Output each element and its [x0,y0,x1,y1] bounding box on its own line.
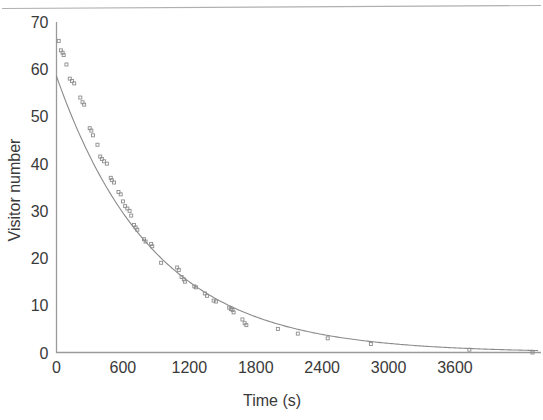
data-point-marker [160,261,163,264]
y-axis-title: Visitor number [6,138,23,242]
axis-lines [57,22,542,353]
data-point-marker [65,63,68,66]
data-point-marker [79,96,82,99]
data-point-marker [128,209,131,212]
x-tick-label: 3000 [371,359,407,376]
data-point-marker [130,214,133,217]
data-point-marker [96,143,99,146]
data-point-marker [241,318,244,321]
top-rule-line [2,6,541,9]
data-point-marker [214,300,217,303]
data-point-marker [113,181,116,184]
x-tick-label: 2400 [304,359,340,376]
x-axis-title: Time (s) [243,392,301,409]
data-point-marker [151,245,154,248]
data-point-marker [90,129,93,132]
axes-group [57,22,542,353]
x-tick-label: 3600 [437,359,473,376]
data-point-marker [73,82,76,85]
y-tick-label: 70 [31,14,49,31]
data-point-marker [57,39,60,42]
x-tick-label: 1800 [238,359,274,376]
data-point-marker [136,228,139,231]
data-point-marker [92,134,95,137]
data-point-marker [83,103,86,106]
chart-figure: 010203040506070 060012001800240030003600… [0,0,543,420]
data-point-marker [296,332,299,335]
data-point-marker [206,294,209,297]
x-tick-label: 1200 [172,359,208,376]
y-tick-label: 60 [31,61,49,78]
data-point-marker [119,193,122,196]
data-point-marker [276,327,279,330]
scatter-plot-canvas: 010203040506070 060012001800240030003600… [0,0,543,420]
y-tick-label: 20 [31,250,49,267]
exponential-fit-curve [57,76,539,350]
y-tick-label: 30 [31,203,49,220]
x-tick-label-group: 060012001800240030003600 [52,359,473,376]
y-tick-label-group: 010203040506070 [31,14,49,362]
data-point-marker [369,343,372,346]
fit-curve-group [57,76,539,350]
x-tick-label: 0 [52,359,61,376]
y-tick-label: 0 [40,345,49,362]
y-tick-label: 50 [31,108,49,125]
data-point-marker [105,162,108,165]
y-tick-label: 10 [31,297,49,314]
y-tick-label: 40 [31,156,49,173]
data-point-marker [326,337,329,340]
data-point-marker [121,200,124,203]
x-tick-label: 600 [110,359,137,376]
data-point-group [57,39,534,354]
